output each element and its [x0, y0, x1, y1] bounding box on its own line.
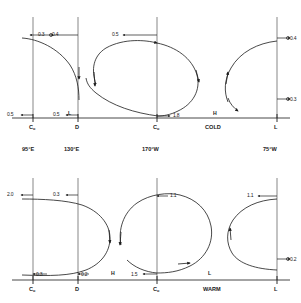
lower-tick-sub-2: o — [157, 289, 159, 293]
lower-value-2: 1.1 — [170, 192, 176, 198]
upper-value-1: 0.4 — [52, 31, 58, 37]
upper-thermal-label: COLD — [205, 124, 221, 130]
lower-value-3: 1.1 — [247, 192, 253, 198]
lower-pressure-marker-H: H — [111, 270, 115, 276]
lower-streamlines — [22, 194, 277, 276]
longitude-label-1: 130°E — [64, 146, 79, 152]
lower-tick-label-1: D — [75, 286, 79, 292]
upper-value-5: 0.5 — [7, 111, 13, 117]
upper-value-2: 0.5 — [112, 31, 118, 37]
lower-tick-label-0: Co — [29, 286, 35, 293]
lower-tick-sub-0: o — [33, 289, 35, 293]
upper-value-6: 0.5 — [53, 111, 59, 117]
lower-value-6: 0.2 — [81, 271, 87, 277]
longitude-label-3: 75°W — [263, 146, 277, 152]
upper-tick-label-3: L — [274, 124, 277, 130]
lower-value-5: 0.3 — [36, 271, 42, 277]
figure-container: 0.3 0.4 0.5 0.4 0.3 0.5 0.5 1.8 L H Co D… — [0, 0, 301, 303]
lower-thermal-label: WARM — [203, 286, 221, 292]
upper-tick-label-1: D — [75, 124, 79, 130]
longitude-label-2: 170°W — [142, 146, 159, 152]
upper-pressure-marker-H: H — [213, 110, 217, 116]
lower-tick-label-2: Co — [153, 286, 159, 293]
lower-pressure-marker-L: L — [208, 270, 211, 276]
upper-value-4: 0.3 — [290, 96, 296, 102]
lower-value-leaders — [21, 195, 290, 274]
upper-streamlines — [22, 38, 277, 116]
upper-tick-sub-2: o — [157, 127, 159, 131]
upper-tick-label-2: Co — [153, 124, 159, 131]
longitude-label-0: 95°E — [22, 146, 34, 152]
axis-tickmarks — [33, 114, 277, 284]
lower-value-0: 2.0 — [7, 191, 13, 197]
lower-value-4: 0.2 — [290, 256, 296, 262]
upper-value-7: 1.8 — [173, 112, 179, 118]
upper-pressure-marker-L: L — [68, 110, 71, 116]
upper-value-3: 0.4 — [290, 35, 296, 41]
upper-tick-sub-0: o — [33, 127, 35, 131]
baselines — [12, 118, 290, 280]
upper-value-leaders — [21, 34, 290, 117]
upper-tick-label-0: Co — [29, 124, 35, 131]
lower-tick-label-3: L — [274, 286, 277, 292]
lower-value-1: 0.3 — [53, 191, 59, 197]
lower-value-7: 1.5 — [131, 271, 137, 277]
upper-value-0: 0.3 — [38, 31, 44, 37]
